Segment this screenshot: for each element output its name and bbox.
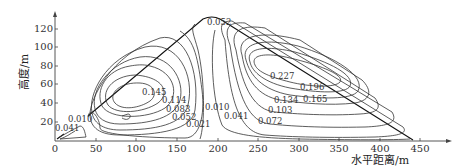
x-tick-label: 350 [329, 143, 348, 154]
contour-label: 0.041 [55, 123, 79, 133]
x-tick-label: 450 [410, 143, 429, 154]
y-axis-title: 高度/m [17, 53, 31, 90]
y-axis-arrow-icon [53, 11, 57, 17]
x-tick-label: 150 [167, 143, 186, 154]
x-tick-label: 0 [52, 143, 58, 154]
x-tick-label: 250 [248, 143, 267, 154]
axes: 0 50 100 150 200 250 300 350 400 450 20 … [17, 11, 452, 167]
y-tick-label: 40 [40, 97, 53, 108]
contour-label: 0.165 [303, 94, 327, 104]
y-tick-label: 120 [34, 23, 53, 34]
x-tick-label: 300 [289, 143, 308, 154]
x-axis-title: 水平距离/m [351, 153, 410, 167]
contour-label: 0.021 [186, 119, 210, 129]
contour-chart: 0 50 100 150 200 250 300 350 400 450 20 … [0, 0, 464, 167]
contour-label: 0.041 [224, 111, 248, 121]
contour-label: 0.227 [270, 71, 294, 81]
right-lobe-contours [212, 21, 410, 140]
contour-label: 0.196 [300, 82, 324, 92]
contour-label: 0.134 [274, 95, 298, 105]
y-tick-label: 80 [40, 60, 53, 71]
section-boundary [88, 17, 413, 140]
contour-label: 0.052 [207, 17, 231, 27]
x-tick-label: 100 [126, 143, 145, 154]
contour-label: 0.072 [258, 116, 282, 126]
x-tick-label: 400 [370, 143, 389, 154]
x-tick-label: 200 [208, 143, 227, 154]
contour-label: 0.103 [268, 105, 292, 115]
y-tick-label: 100 [34, 41, 53, 52]
x-tick-label: 50 [90, 143, 103, 154]
y-tick-label: 20 [40, 116, 53, 127]
x-axis-arrow-icon [446, 139, 452, 143]
y-tick-label: 60 [40, 78, 53, 89]
